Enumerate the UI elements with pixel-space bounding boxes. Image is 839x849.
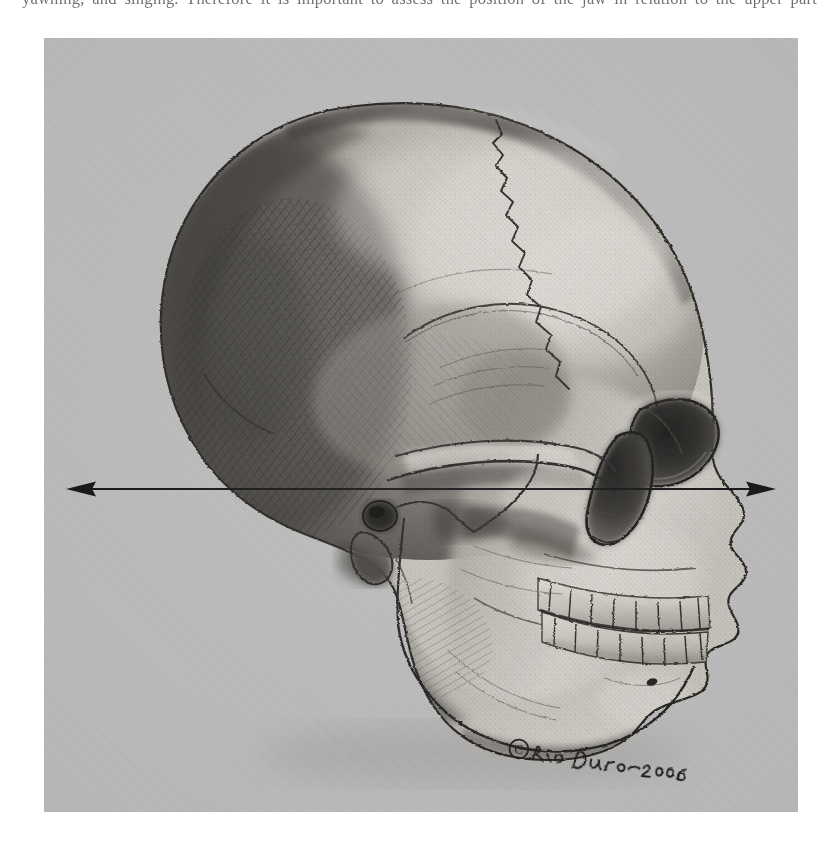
copyright-c-glyph: C <box>514 741 524 757</box>
skull-illustration: C <box>44 38 798 812</box>
figure-panel: C <box>44 38 798 812</box>
external-acoustic-meatus <box>363 501 397 531</box>
page-top-caption-fragment: yawning, and singing. Therefore it is im… <box>0 0 839 11</box>
